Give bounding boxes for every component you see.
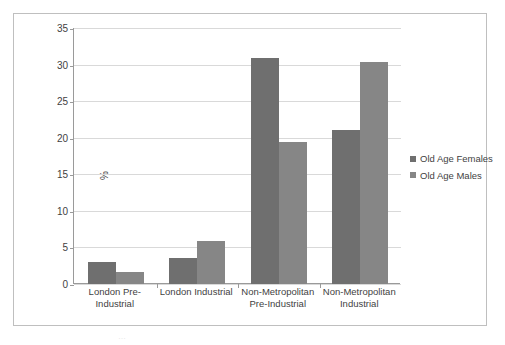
bar-groups (75, 28, 401, 284)
y-tick-mark-30 (70, 66, 74, 67)
bar[interactable] (169, 258, 197, 284)
bar-group (157, 28, 239, 284)
y-tick-mark-35 (70, 29, 74, 30)
x-axis-category-label: Non-MetropolitanIndustrial (319, 286, 401, 310)
category-label-line: Non-Metropolitan (320, 286, 400, 298)
y-tick-mark-10 (70, 212, 74, 213)
legend-swatch-icon (410, 172, 416, 178)
y-tick-label-0: 0 (62, 280, 68, 290)
bar[interactable] (116, 272, 144, 284)
bar[interactable] (251, 58, 279, 284)
category-label-line: London Industrial (157, 286, 237, 298)
y-tick-mark-15 (70, 175, 74, 176)
y-tick-label-5: 5 (62, 243, 68, 253)
y-tick-label-15: 15 (57, 170, 68, 180)
bar-group (238, 28, 320, 284)
y-tick-mark-5 (70, 248, 74, 249)
category-label-line: Industrial (320, 298, 400, 310)
category-label-line: Pre-Industrial (238, 298, 318, 310)
y-tick-label-10: 10 (57, 207, 68, 217)
chart-legend: Old Age FemalesOld Age Males (410, 154, 496, 187)
x-axis-category-label: London Pre-Industrial (74, 286, 156, 310)
plot-wrapper: % 05101520253035 London Pre-IndustrialLo… (73, 28, 400, 298)
bar-group (75, 28, 157, 284)
category-label-line: Industrial (75, 298, 155, 310)
caption-text: … (118, 332, 126, 342)
legend-item[interactable]: Old Age Males (410, 171, 496, 181)
bar[interactable] (88, 262, 116, 284)
bar[interactable] (360, 62, 388, 284)
legend-item[interactable]: Old Age Females (410, 154, 496, 164)
x-axis-category-label: Non-MetropolitanPre-Industrial (237, 286, 319, 310)
bar[interactable] (279, 142, 307, 284)
y-tick-label-35: 35 (57, 24, 68, 34)
bar[interactable] (332, 130, 360, 284)
y-tick-label-30: 30 (57, 61, 68, 71)
bar[interactable] (197, 241, 225, 284)
legend-label: Old Age Males (420, 171, 482, 181)
x-axis-category-labels: London Pre-IndustrialLondon IndustrialNo… (74, 286, 400, 310)
bar-group (320, 28, 402, 284)
y-tick-mark-25 (70, 102, 74, 103)
x-axis-category-label: London Industrial (156, 286, 238, 310)
y-tick-label-20: 20 (57, 134, 68, 144)
legend-label: Old Age Females (420, 154, 493, 164)
plot-area: 05101520253035 (73, 28, 400, 284)
screenshot-canvas: % 05101520253035 London Pre-IndustrialLo… (0, 0, 505, 345)
category-label-line: London Pre- (75, 286, 155, 298)
y-tick-mark-20 (70, 139, 74, 140)
legend-swatch-icon (410, 156, 416, 162)
clipped-caption-strip: … (0, 332, 505, 345)
chart-frame: % 05101520253035 London Pre-IndustrialLo… (13, 13, 487, 326)
category-label-line: Non-Metropolitan (238, 286, 318, 298)
y-tick-label-25: 25 (57, 97, 68, 107)
